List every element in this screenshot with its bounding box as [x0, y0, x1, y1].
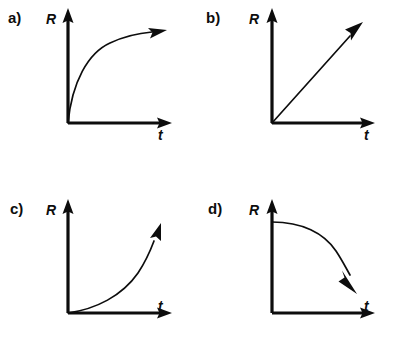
panel-b: b) R t	[198, 0, 396, 171]
x-axis-label-b: t	[364, 128, 369, 142]
panel-label-a: a)	[8, 10, 21, 25]
panel-b-graph	[198, 0, 396, 171]
y-axis-label-d: R	[249, 203, 259, 217]
y-axis-label-a: R	[46, 12, 56, 26]
curve-arrowhead-icon	[148, 28, 167, 39]
curve-linear	[272, 36, 350, 123]
panel-c-graph	[0, 171, 198, 342]
y-axis-label-b: R	[249, 12, 259, 26]
x-axis-label-a: t	[158, 128, 163, 142]
x-axis-label-d: t	[364, 299, 369, 313]
curve-arrowhead-icon	[339, 271, 358, 295]
panel-label-d: d)	[208, 201, 222, 216]
curve-logarithmic	[68, 32, 152, 123]
x-axis-label-c: t	[158, 299, 163, 313]
panel-d: d) R t	[198, 171, 396, 342]
figure-root: a) R t b) R t c) R	[0, 0, 396, 342]
panel-c: c) R t	[0, 171, 198, 342]
curve-decreasing	[272, 222, 350, 275]
curve-exponential	[68, 241, 154, 313]
panel-label-c: c)	[10, 201, 23, 216]
panel-d-graph	[198, 171, 396, 342]
y-axis-label-c: R	[46, 203, 56, 217]
panel-a-graph	[0, 0, 198, 171]
curve-arrowhead-icon	[150, 223, 161, 241]
panel-label-b: b)	[206, 10, 220, 25]
panel-a: a) R t	[0, 0, 198, 171]
